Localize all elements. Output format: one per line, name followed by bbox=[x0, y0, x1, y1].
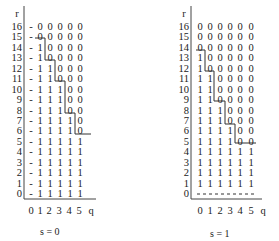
grid-cell: 1 bbox=[235, 179, 245, 189]
grid-cell: 1 bbox=[215, 179, 225, 189]
grid-cell: 1 bbox=[195, 53, 205, 63]
grid-cell: 0 bbox=[75, 32, 85, 42]
grid-cell: 0 bbox=[55, 32, 65, 42]
grid-cell: 1 bbox=[215, 126, 225, 136]
grid-cell: 0 bbox=[55, 53, 65, 63]
grid-cell: 1 bbox=[35, 189, 45, 199]
grid-cell: 0 bbox=[235, 53, 245, 63]
grid-cell: 1 bbox=[205, 168, 215, 178]
grid-cell: 1 bbox=[225, 168, 235, 178]
grid-cell: 1 bbox=[246, 147, 256, 157]
grid-cell: 0 bbox=[75, 53, 85, 63]
grid-cell: 0 bbox=[75, 74, 85, 84]
grid-cell: 0 bbox=[246, 53, 256, 63]
grid-cell: 1 bbox=[205, 179, 215, 189]
grid-cell: 1 bbox=[225, 147, 235, 157]
grid-cell: 0 bbox=[235, 126, 245, 136]
grid-cell: 1 bbox=[75, 147, 85, 157]
x-tick-label: 4 bbox=[235, 206, 245, 216]
grid-cell: 0 bbox=[205, 32, 215, 42]
grid-cell: 1 bbox=[195, 179, 205, 189]
grid-cell: 1 bbox=[55, 168, 65, 178]
row-label: 9 bbox=[175, 95, 189, 105]
grid-cell: 0 bbox=[35, 32, 45, 42]
grid-cell: 1 bbox=[215, 168, 225, 178]
grid-cell: 0 bbox=[55, 74, 65, 84]
row-label: 4 bbox=[175, 147, 189, 157]
grid-cell: 1 bbox=[65, 168, 75, 178]
grid-cell: 1 bbox=[65, 147, 75, 157]
panel-s1: 1600000015000000140000001310000012100000… bbox=[140, 0, 279, 241]
grid-cell: 1 bbox=[235, 147, 245, 157]
grid-cell: 1 bbox=[55, 189, 65, 199]
x-tick-label: 5 bbox=[246, 206, 256, 216]
grid-cell: 1 bbox=[35, 53, 45, 63]
row-label: 15 bbox=[175, 32, 189, 42]
grid-cell: 1 bbox=[35, 74, 45, 84]
grid-cell: 0 bbox=[65, 74, 75, 84]
grid-cell: 1 bbox=[195, 147, 205, 157]
grid-cell: 0 bbox=[225, 32, 235, 42]
panel-s0: 16-0000015-0000014-1000013-1000012-11000… bbox=[0, 0, 140, 241]
row-label: 13 bbox=[175, 53, 189, 63]
x-tick-label: 2 bbox=[44, 206, 54, 216]
grid-cell: 0 bbox=[235, 74, 245, 84]
grid-cell: 0 bbox=[246, 95, 256, 105]
grid-cell: 0 bbox=[195, 32, 205, 42]
grid-cell: 0 bbox=[215, 95, 225, 105]
grid-cell: 0 bbox=[225, 95, 235, 105]
grid-cell: 0 bbox=[205, 53, 215, 63]
grid-cell: 1 bbox=[65, 126, 75, 136]
grid-cell: 1 bbox=[195, 74, 205, 84]
caption: s = 1 bbox=[210, 229, 230, 239]
grid-cell: 1 bbox=[45, 74, 55, 84]
x-axis-label: q bbox=[258, 206, 268, 216]
row-label: 9 bbox=[8, 95, 22, 105]
grid-cell: 1 bbox=[205, 74, 215, 84]
row-label: 13 bbox=[8, 53, 22, 63]
grid-cell: 1 bbox=[45, 168, 55, 178]
grid-cell: 0 bbox=[65, 53, 75, 63]
row-label: 15 bbox=[8, 32, 22, 42]
grid-cell: 0 bbox=[235, 95, 245, 105]
grid-cell: 0 bbox=[215, 74, 225, 84]
caption: s = 0 bbox=[40, 227, 60, 237]
grid-cell: 1 bbox=[225, 179, 235, 189]
grid-cell: 1 bbox=[195, 168, 205, 178]
row-label: 11 bbox=[175, 74, 189, 84]
grid-cell: 1 bbox=[205, 95, 215, 105]
grid-cell: 1 bbox=[55, 95, 65, 105]
x-tick-label: 2 bbox=[215, 206, 225, 216]
grid-cell: 0 bbox=[215, 53, 225, 63]
grid-cell: 0 bbox=[45, 32, 55, 42]
grid-cell: 1 bbox=[55, 126, 65, 136]
grid-cell: 1 bbox=[45, 189, 55, 199]
row-label: 6 bbox=[175, 126, 189, 136]
grid-cell: 1 bbox=[246, 179, 256, 189]
x-tick-label: 1 bbox=[205, 206, 215, 216]
grid-cell: 1 bbox=[205, 126, 215, 136]
grid-cell: 1 bbox=[45, 95, 55, 105]
grid-cell: 0 bbox=[75, 126, 85, 136]
row-label: 0 bbox=[175, 189, 189, 199]
row-label: 2 bbox=[8, 168, 22, 178]
grid-cell: 0 bbox=[65, 32, 75, 42]
grid-cell: 1 bbox=[205, 147, 215, 157]
x-axis-label: q bbox=[86, 206, 96, 216]
x-tick-label: 3 bbox=[225, 206, 235, 216]
grid-cell: 1 bbox=[75, 168, 85, 178]
x-tick-label: 4 bbox=[64, 206, 74, 216]
x-tick-label: 0 bbox=[195, 206, 205, 216]
grid-cell: 0 bbox=[246, 74, 256, 84]
grid-cell: 0 bbox=[246, 32, 256, 42]
grid-cell: 0 bbox=[215, 32, 225, 42]
grid-cell: 0 bbox=[65, 95, 75, 105]
grid-cell: 1 bbox=[45, 126, 55, 136]
row-label: 6 bbox=[8, 126, 22, 136]
grid-cell: 0 bbox=[45, 53, 55, 63]
grid-cell: 1 bbox=[75, 189, 85, 199]
grid-cell: 1 bbox=[35, 95, 45, 105]
x-tick-label: 5 bbox=[74, 206, 84, 216]
grid-cell: 1 bbox=[215, 147, 225, 157]
grid-cell: 1 bbox=[195, 95, 205, 105]
